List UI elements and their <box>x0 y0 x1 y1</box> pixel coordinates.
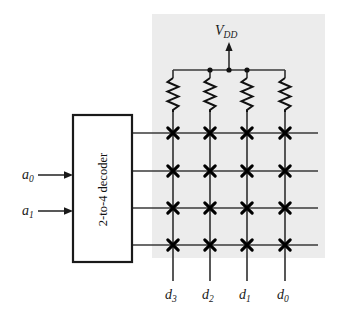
decoder-label: 2-to-4 decoder <box>96 150 111 230</box>
junction-dot <box>207 67 212 72</box>
circuit-diagram <box>0 0 347 319</box>
output-label-d0: d0 <box>277 288 289 304</box>
output-label-d3: d3 <box>165 288 177 304</box>
input-label-a0: a0 <box>22 168 34 184</box>
output-label-d1: d1 <box>239 288 251 304</box>
junction-dot <box>244 67 249 72</box>
junction-dot <box>226 67 231 72</box>
input-arrowhead-a1 <box>64 207 73 214</box>
figure-canvas: a0 a1 2-to-4 decoder VDD d3 d2 d1 d0 <box>0 0 347 319</box>
input-arrowhead-a0 <box>64 171 73 178</box>
input-label-a1: a1 <box>22 204 34 220</box>
vdd-label: VDD <box>215 24 237 40</box>
output-label-d2: d2 <box>202 288 214 304</box>
